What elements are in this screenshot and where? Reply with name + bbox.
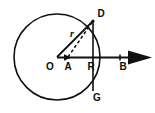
label-g: G (93, 92, 101, 103)
label-radius-r: r (70, 28, 74, 39)
axis-terminal-arrowhead-icon (128, 51, 152, 65)
label-a: A (64, 61, 71, 72)
label-r: R (87, 61, 95, 72)
geometry-canvas: O A R B D G r (0, 0, 155, 113)
chord-ad-dashed-line (68, 21, 93, 57)
geometry-figure: O A R B D G r (0, 0, 155, 113)
point-marker-d (91, 19, 94, 22)
point-marker-a (67, 56, 70, 59)
label-o: O (46, 61, 54, 72)
label-d: D (97, 8, 104, 19)
label-b: B (119, 61, 126, 72)
radius-od-line (57, 21, 93, 57)
